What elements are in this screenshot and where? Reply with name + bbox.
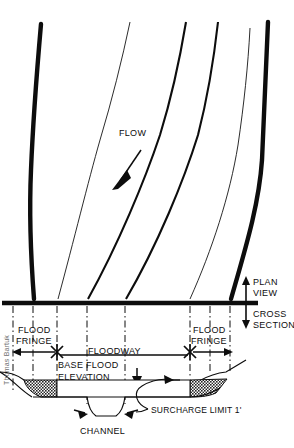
base-flood-elevation-label-line1: BASE FLOOD <box>58 360 119 370</box>
flood-fringe-right-label-line1: FLOOD <box>193 325 226 335</box>
plan-view-label-line2: VIEW <box>253 288 277 298</box>
flood-fringe-left-label-line2: FRINGE <box>16 336 52 346</box>
channel-label: CHANNEL <box>80 426 125 436</box>
flood-fringe-right-label-line2: FRINGE <box>191 336 227 346</box>
flood-fringe-left-label-line1: FLOOD <box>18 325 51 335</box>
credit-label: Thomas Bartuk <box>3 335 10 385</box>
floodway-clear-band <box>57 380 190 397</box>
surcharge-limit-label: SURCHARGE LIMIT 1' <box>151 405 242 415</box>
flow-label: FLOW <box>119 128 146 138</box>
cross-section-label-line2: SECTION <box>253 320 294 330</box>
floodway-diagram: FLOW PLAN VIEW CROSS SECTION FLOOD FRING <box>0 0 294 448</box>
plan-view-label-line1: PLAN <box>253 277 278 287</box>
cross-section-label-line1: CROSS <box>253 309 287 319</box>
